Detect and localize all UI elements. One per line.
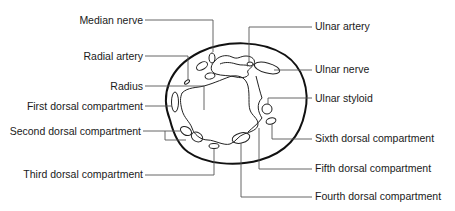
ulnar-nerve-shape bbox=[253, 60, 281, 76]
ulnar-artery-shape bbox=[247, 62, 253, 66]
first-dorsal-compartment-shape bbox=[172, 92, 179, 112]
label-ulnar-styloid: Ulnar styloid bbox=[315, 92, 373, 104]
leader-fourth-dorsal bbox=[241, 143, 312, 197]
tendon-shape bbox=[205, 72, 216, 80]
label-fifth-dorsal-compartment: Fifth dorsal compartment bbox=[315, 162, 431, 174]
ulna-contour bbox=[248, 76, 262, 132]
label-sixth-dorsal-compartment: Sixth dorsal compartment bbox=[315, 132, 434, 144]
label-ulnar-nerve: Ulnar nerve bbox=[315, 63, 369, 75]
label-ulnar-artery: Ulnar artery bbox=[315, 20, 370, 32]
leader-radial-artery bbox=[145, 56, 188, 80]
flexor-tendons bbox=[211, 56, 254, 78]
leader-median-nerve bbox=[145, 20, 213, 52]
leader-sixth-dorsal bbox=[272, 124, 312, 139]
radial-artery-shape bbox=[184, 79, 191, 85]
label-fourth-dorsal-compartment: Fourth dorsal compartment bbox=[315, 190, 441, 202]
label-median-nerve: Median nerve bbox=[79, 14, 143, 26]
median-nerve-shape bbox=[209, 53, 215, 63]
ulnar-styloid-shape bbox=[262, 104, 272, 114]
leader-second-dorsal bbox=[143, 131, 186, 140]
label-radius: Radius bbox=[110, 80, 143, 92]
leader-fifth-dorsal bbox=[259, 128, 312, 169]
label-radial-artery: Radial artery bbox=[83, 50, 143, 62]
sixth-dorsal-compartment-shape bbox=[265, 117, 276, 125]
third-dorsal-compartment-shape bbox=[209, 144, 219, 149]
label-second-dorsal-compartment: Second dorsal compartment bbox=[10, 125, 141, 137]
label-third-dorsal-compartment: Third dorsal compartment bbox=[23, 168, 143, 180]
flexor-tendons-inner bbox=[220, 63, 248, 67]
skin-outline bbox=[166, 43, 307, 163]
wrist-cross-section-diagram: Median nerve Radial artery Radius First … bbox=[0, 0, 455, 211]
leader-third-dorsal bbox=[145, 149, 214, 175]
tendon-shape bbox=[195, 60, 209, 72]
label-first-dorsal-compartment: First dorsal compartment bbox=[27, 100, 143, 112]
